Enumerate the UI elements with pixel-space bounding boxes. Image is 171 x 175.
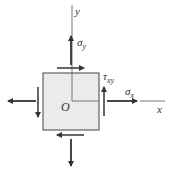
- x-axis-label: x: [156, 103, 162, 115]
- origin-label: O: [61, 100, 70, 114]
- y-axis-label: y: [74, 5, 80, 17]
- sigma-x-label: σx: [125, 85, 134, 100]
- stress-element: [43, 73, 99, 130]
- tau-xy-label: τxy: [103, 70, 114, 85]
- stress-element-diagram: y x O σy σx τxy: [0, 0, 171, 175]
- sigma-y-label: σy: [77, 36, 86, 51]
